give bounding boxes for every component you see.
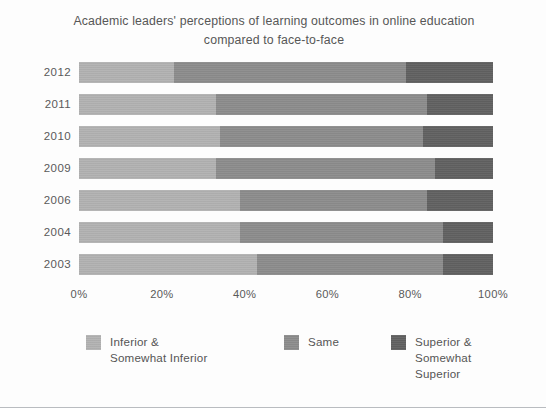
x-axis-tick-label: 60% bbox=[316, 288, 339, 300]
chart-title: Academic leaders' perceptions of learnin… bbox=[28, 12, 520, 50]
bar-segment bbox=[435, 158, 493, 179]
bar-segment bbox=[79, 126, 220, 147]
bar-segment bbox=[443, 254, 493, 275]
bar-segment bbox=[257, 254, 443, 275]
y-axis-tick-label: 2011 bbox=[25, 94, 71, 115]
bar-segment bbox=[427, 94, 493, 115]
bar-row bbox=[79, 190, 493, 211]
bar-segment bbox=[79, 94, 216, 115]
legend-label: Inferior & Somewhat Inferior bbox=[110, 334, 207, 366]
bar-segment bbox=[240, 222, 443, 243]
x-axis-tick-label: 20% bbox=[150, 288, 173, 300]
bar-row bbox=[79, 254, 493, 275]
bar-row bbox=[79, 158, 493, 179]
legend-item[interactable]: Inferior & Somewhat Inferior bbox=[86, 334, 207, 366]
legend-item[interactable]: Superior & Somewhat Superior bbox=[391, 334, 506, 382]
bar-segment bbox=[174, 62, 406, 83]
bar-segment bbox=[79, 222, 240, 243]
bar-segment bbox=[443, 222, 493, 243]
bar-segment bbox=[216, 94, 427, 115]
bar-row bbox=[79, 126, 493, 147]
x-axis-tick-label: 100% bbox=[478, 288, 508, 300]
chart-card: Academic leaders' perceptions of learnin… bbox=[0, 0, 546, 408]
legend-label: Superior & Somewhat Superior bbox=[415, 334, 506, 382]
chart-legend: Inferior & Somewhat InferiorSameSuperior… bbox=[86, 334, 506, 382]
legend-item[interactable]: Same bbox=[284, 334, 339, 350]
y-axis-tick-label: 2010 bbox=[25, 126, 71, 147]
chart-title-line-2: compared to face-to-face bbox=[28, 31, 520, 50]
bar-segment bbox=[240, 190, 426, 211]
bar-row bbox=[79, 62, 493, 83]
chart-title-line-1: Academic leaders' perceptions of learnin… bbox=[73, 14, 474, 28]
bar-segment bbox=[423, 126, 493, 147]
x-axis-tick-label: 40% bbox=[233, 288, 256, 300]
bar-segment bbox=[406, 62, 493, 83]
bar-row bbox=[79, 94, 493, 115]
x-axis-tick-label: 0% bbox=[71, 288, 88, 300]
x-axis-labels: 0%20%40%60%80%100% bbox=[79, 288, 493, 304]
bar-segment bbox=[220, 126, 423, 147]
y-axis-tick-label: 2006 bbox=[25, 190, 71, 211]
y-axis-tick-label: 2009 bbox=[25, 158, 71, 179]
y-axis-tick-label: 2012 bbox=[25, 62, 71, 83]
bar-segment bbox=[79, 254, 257, 275]
x-axis-tick-label: 80% bbox=[399, 288, 422, 300]
bar-segment bbox=[216, 158, 435, 179]
legend-swatch-icon bbox=[86, 335, 101, 350]
plot-area bbox=[79, 62, 493, 284]
legend-label: Same bbox=[308, 334, 339, 350]
y-axis-labels: 2012201120102009200620042003 bbox=[23, 62, 71, 284]
bar-segment bbox=[427, 190, 493, 211]
legend-swatch-icon bbox=[284, 335, 299, 350]
bar-segment bbox=[79, 62, 174, 83]
y-axis-tick-label: 2003 bbox=[25, 254, 71, 275]
y-axis-tick-label: 2004 bbox=[25, 222, 71, 243]
bar-segment bbox=[79, 158, 216, 179]
bar-row bbox=[79, 222, 493, 243]
legend-swatch-icon bbox=[391, 335, 406, 350]
bar-segment bbox=[79, 190, 240, 211]
